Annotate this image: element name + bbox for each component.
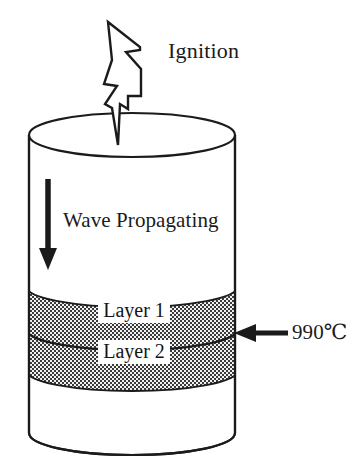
layer-1-label: Layer 1 xyxy=(98,299,170,323)
layer-2-label: Layer 2 xyxy=(98,340,170,364)
diagram-canvas xyxy=(0,0,361,468)
figure-root: Ignition Wave Propagating 990℃ Layer 1 L… xyxy=(0,0,361,468)
wave-propagating-label: Wave Propagating xyxy=(63,208,219,233)
ignition-label: Ignition xyxy=(168,38,239,64)
cylinder-body xyxy=(29,135,235,455)
cylinder-top-face xyxy=(29,113,235,157)
left-arrow-icon xyxy=(234,324,288,342)
temperature-label: 990℃ xyxy=(292,320,347,345)
